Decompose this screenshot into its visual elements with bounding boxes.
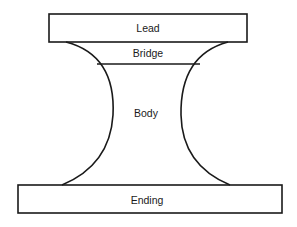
body-label: Body <box>134 107 159 119</box>
lead-label: Lead <box>136 22 160 34</box>
story-structure-diagram: Lead Bridge Body Ending <box>0 0 297 227</box>
ending-label: Ending <box>131 194 164 206</box>
bridge-label: Bridge <box>133 47 164 59</box>
